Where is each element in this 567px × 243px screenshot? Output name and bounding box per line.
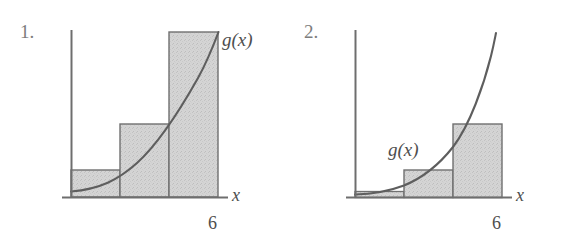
figure-1-x-axis-label: x [232, 186, 240, 204]
figure-1-function-label: g(x) [222, 30, 253, 49]
figure-2-index-label: 2. [304, 22, 318, 41]
figure-1-rectangles [71, 32, 218, 197]
figure-1-x-tick-6: 6 [208, 214, 217, 232]
figure-1-index-label: 1. [20, 22, 34, 41]
figure-2-rectangles [355, 124, 502, 198]
figure-2-x-axis-label: x [516, 186, 524, 204]
rectangle-1 [71, 170, 120, 197]
figure-2-x-tick-6: 6 [492, 214, 501, 232]
figure-2-graphic [284, 0, 567, 243]
figure-2-function-label: g(x) [388, 140, 419, 159]
figure-1-right-endpoint: 1. g(x) x 6 [0, 0, 284, 243]
rectangle-2 [404, 170, 453, 198]
figure-page: 1. g(x) x 6 [0, 0, 567, 243]
figure-2-left-endpoint: 2. g(x) x 6 [284, 0, 567, 243]
